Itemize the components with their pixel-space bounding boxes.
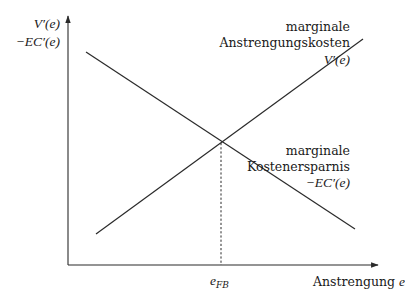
cost-saving-label-line1: marginale [250,143,350,158]
cost-saving-label-math: −EC′(e) [280,175,350,190]
x-axis-label-var: e [399,274,405,289]
efb-label: eFB [210,273,229,293]
effort-cost-label-line2: Anstrengungskosten [200,35,350,50]
efb-label-sub: FB [216,280,229,290]
effort-cost-label-math: V′(e) [290,52,350,67]
x-axis-label-text: Anstrengung [313,274,395,289]
x-axis-label: Anstrengung e [313,274,405,289]
y-axis-label-line2: −EC′(e) [4,34,60,49]
y-axis-label-line1: V′(e) [10,16,60,31]
curve-marginal-effort-cost [96,39,363,234]
effort-cost-label-line1: marginale [230,19,350,34]
cost-saving-label-line2: Kostenersparnis [230,159,350,174]
